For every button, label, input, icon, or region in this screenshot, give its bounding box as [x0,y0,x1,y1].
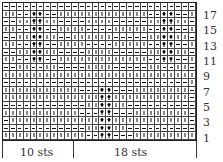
stitch-purl [189,3,196,11]
stitch-purl [120,64,127,72]
stitch-purl [141,49,148,57]
stitch-knit [72,33,79,41]
stitch-knit [10,41,17,49]
stitch-purl [37,102,44,110]
stitch-knit [37,132,44,140]
stitch-knit [120,94,127,102]
stitch-purl [182,56,189,64]
row-label-5: 5 [203,102,210,113]
stitch-purl [3,117,10,125]
stitch-purl [175,79,182,87]
stitch-knit [93,11,100,19]
row-label-17: 17 [203,10,217,21]
stitch-purl [155,125,162,133]
stitch-purl [86,26,93,34]
stitch-purl [127,132,134,140]
stitch-knit [127,117,134,125]
stitch-purl [86,109,93,117]
stitch-knit [31,117,38,125]
stitch-cable [99,94,106,102]
stitch-purl [141,3,148,11]
stitch-knit [17,87,24,95]
stitch-knit [51,18,58,26]
stitch-knit [3,109,10,117]
stitch-purl [134,18,141,26]
stitch-knit [37,87,44,95]
stitch-purl [189,18,196,26]
stitch-purl [182,26,189,34]
stitch-cable [31,33,38,41]
stitch-purl [86,79,93,87]
stitch-cable [37,41,44,49]
stitch-knit [93,94,100,102]
stitch-purl [120,49,127,57]
stitch-purl [79,49,86,57]
stitch-purl [93,87,100,95]
stitch-knit [155,64,162,72]
stitch-knit [189,56,196,64]
stitch-knit [120,125,127,133]
stitch-knit [155,94,162,102]
stitch-purl [58,3,65,11]
stitch-knit [65,41,72,49]
stitch-purl [168,3,175,11]
stitch-knit [31,71,38,79]
stitch-purl [79,64,86,72]
stitch-knit [72,109,79,117]
stitch-purl [148,11,155,19]
stitch-purl [175,125,182,133]
stitch-knit [93,125,100,133]
stitch-knit [58,109,65,117]
stitch-purl [175,3,182,11]
stitch-knit [72,26,79,34]
stitch-knit [10,11,17,19]
stitch-knit [155,87,162,95]
stitch-knit [3,87,10,95]
stitch-purl [3,102,10,110]
stitch-purl [51,11,58,19]
stitch-knit [93,56,100,64]
stitch-knit [72,56,79,64]
stitch-knit [127,71,134,79]
stitch-knit [182,109,189,117]
stitch-purl [168,79,175,87]
stitch-knit [134,94,141,102]
stitch-knit [37,71,44,79]
stitch-purl [93,26,100,34]
stitch-purl [51,102,58,110]
stitch-knit [44,117,51,125]
stitch-knit [113,41,120,49]
stitch-knit [44,33,51,41]
stitch-purl [72,102,79,110]
stitch-purl [44,102,51,110]
stitch-knit [58,11,65,19]
stitch-knit [189,79,196,87]
stitch-knit [51,64,58,72]
stitch-purl [58,125,65,133]
stitch-purl [72,18,79,26]
stitch-purl [161,64,168,72]
stitch-purl [31,64,38,72]
stitch-purl [155,79,162,87]
stitch-knit [72,71,79,79]
stitch-knit [113,26,120,34]
stitch-purl [17,41,24,49]
stitch-knit [17,109,24,117]
stitch-knit [10,87,17,95]
stitch-knit [24,117,31,125]
stitch-purl [155,11,162,19]
stitch-knit [51,94,58,102]
stitch-knit [58,71,65,79]
stitch-knit [51,132,58,140]
stitch-purl [127,109,134,117]
stitch-knit [175,71,182,79]
stitch-knit [44,71,51,79]
stitch-knit [127,56,134,64]
stitch-knit [86,33,93,41]
stitch-purl [93,79,100,87]
stitch-knit [175,49,182,57]
stitch-cable [31,18,38,26]
row-label-9: 9 [203,71,210,82]
stitch-knit [141,87,148,95]
stitch-purl [65,125,72,133]
